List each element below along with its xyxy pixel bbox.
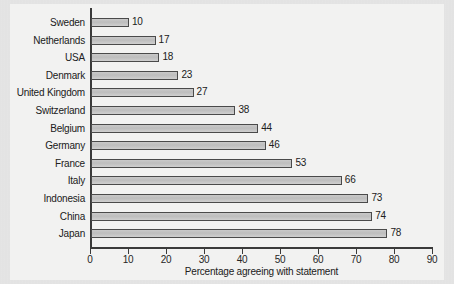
x-axis-line	[90, 247, 433, 249]
bar-germany	[91, 141, 266, 150]
x-axis-title: Percentage agreeing with statement	[90, 266, 433, 277]
category-label-china: China	[0, 211, 85, 222]
bar-value-denmark: 23	[181, 69, 192, 80]
bar-usa	[91, 53, 159, 62]
bar-japan	[91, 229, 387, 238]
bar-china	[91, 212, 372, 221]
bar-france	[91, 159, 292, 168]
x-tick-label-20: 20	[146, 254, 186, 265]
bar-value-united-kingdom: 27	[197, 86, 208, 97]
x-tick-label-50: 50	[260, 254, 300, 265]
x-tick-label-70: 70	[336, 254, 376, 265]
x-tick-label-0: 0	[70, 254, 110, 265]
category-label-indonesia: Indonesia	[0, 193, 85, 204]
bar-sweden	[91, 18, 129, 27]
chart-figure: 0102030405060708090 SwedenNetherlandsUSA…	[0, 0, 454, 284]
category-label-united-kingdom: United Kingdom	[0, 87, 85, 98]
bar-italy	[91, 176, 342, 185]
x-tick-label-80: 80	[374, 254, 414, 265]
category-label-germany: Germany	[0, 140, 85, 151]
bar-value-belgium: 44	[261, 122, 272, 133]
bar-value-sweden: 10	[132, 16, 143, 27]
bar-value-france: 53	[295, 157, 306, 168]
category-label-belgium: Belgium	[0, 123, 85, 134]
bar-united-kingdom	[91, 88, 194, 97]
category-label-sweden: Sweden	[0, 17, 85, 28]
bar-value-indonesia: 73	[371, 192, 382, 203]
bar-switzerland	[91, 106, 235, 115]
x-tick-label-10: 10	[108, 254, 148, 265]
bar-value-netherlands: 17	[159, 34, 170, 45]
bar-netherlands	[91, 36, 156, 45]
x-tick-label-90: 90	[412, 254, 452, 265]
bar-value-germany: 46	[269, 139, 280, 150]
bar-value-usa: 18	[162, 51, 173, 62]
bar-value-japan: 78	[390, 227, 401, 238]
bar-value-china: 74	[375, 210, 386, 221]
category-label-usa: USA	[0, 52, 85, 63]
x-tick-label-60: 60	[298, 254, 338, 265]
x-tick-label-30: 30	[184, 254, 224, 265]
bar-indonesia	[91, 194, 368, 203]
bar-belgium	[91, 124, 258, 133]
category-label-denmark: Denmark	[0, 70, 85, 81]
bar-value-italy: 66	[345, 174, 356, 185]
bar-value-switzerland: 38	[238, 104, 249, 115]
category-label-italy: Italy	[0, 175, 85, 186]
x-tick-label-40: 40	[222, 254, 262, 265]
category-label-netherlands: Netherlands	[0, 35, 85, 46]
bar-denmark	[91, 71, 178, 80]
category-label-switzerland: Switzerland	[0, 105, 85, 116]
category-label-japan: Japan	[0, 228, 85, 239]
category-label-france: France	[0, 158, 85, 169]
